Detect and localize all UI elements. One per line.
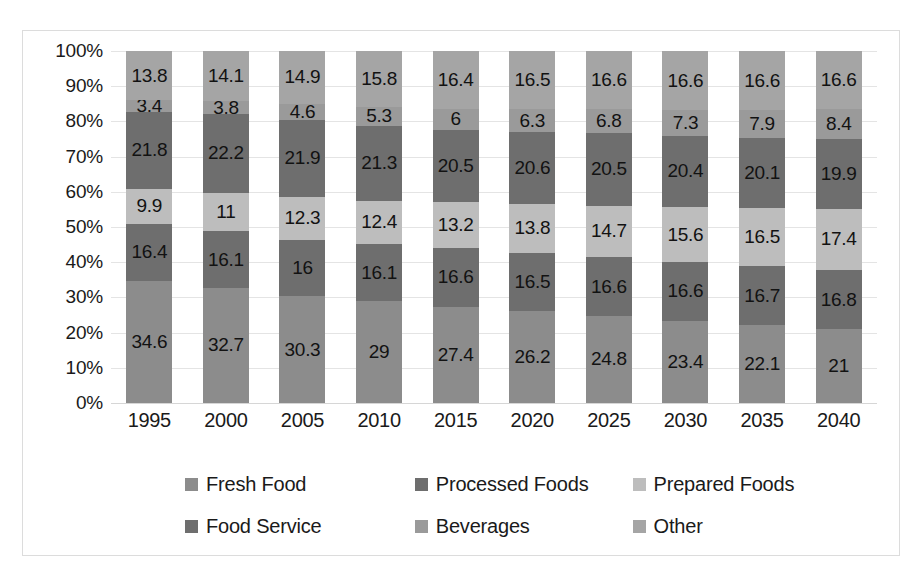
bar-segment[interactable]: 16.1 (203, 231, 249, 288)
bar-segment-value: 13.8 (131, 65, 167, 87)
bar-segment[interactable]: 7.9 (739, 110, 785, 138)
bar-segment[interactable]: 20.1 (739, 138, 785, 209)
legend-item[interactable]: Prepared Foods (627, 473, 839, 496)
legend-item[interactable]: Fresh Food (163, 473, 397, 496)
bar-segment[interactable]: 20.6 (509, 132, 555, 205)
bar-segment[interactable]: 16 (279, 240, 325, 296)
stacked-bar[interactable]: 26.216.513.820.66.316.5 (509, 51, 555, 403)
bar-segment[interactable]: 9.9 (126, 189, 172, 224)
bar-segment[interactable]: 16.4 (433, 51, 479, 109)
bar-segment[interactable]: 32.7 (203, 288, 249, 403)
bar-segment[interactable]: 16.6 (433, 248, 479, 306)
bar-segment[interactable]: 3.8 (203, 101, 249, 114)
bar-segment[interactable]: 15.6 (662, 207, 708, 262)
bar-segment[interactable]: 16.5 (509, 253, 555, 311)
bar-segment[interactable]: 6 (433, 109, 479, 130)
bar-segment[interactable]: 5.3 (356, 107, 402, 126)
bar-segment[interactable]: 22.2 (203, 114, 249, 192)
legend-swatch-icon (415, 478, 428, 491)
bar-segment[interactable]: 6.8 (586, 109, 632, 133)
bar-segment[interactable]: 16.6 (662, 262, 708, 320)
bar-segment-value: 6.8 (596, 110, 622, 132)
bar-segment-value: 21.8 (131, 139, 167, 161)
bar-segment-value: 16 (292, 257, 313, 279)
bar-segment[interactable]: 16.6 (816, 51, 862, 109)
stacked-bar[interactable]: 2916.112.421.35.315.8 (356, 51, 402, 403)
stacked-bar[interactable]: 2116.817.419.98.416.6 (816, 51, 862, 403)
bar-segment[interactable]: 13.8 (509, 204, 555, 253)
legend-item[interactable]: Processed Foods (397, 473, 627, 496)
bar-segment-value: 14.7 (591, 220, 627, 242)
bar-segment[interactable]: 16.7 (739, 266, 785, 325)
bar-segment-value: 17.4 (821, 228, 857, 250)
bar-segment[interactable]: 13.2 (433, 202, 479, 248)
bar-segment[interactable]: 3.4 (126, 100, 172, 112)
bar-segment[interactable]: 21.8 (126, 112, 172, 189)
bar-segment[interactable]: 29 (356, 301, 402, 403)
bar-segment[interactable]: 12.4 (356, 201, 402, 245)
legend-item[interactable]: Beverages (397, 515, 627, 538)
bar-segment[interactable]: 21.9 (279, 120, 325, 197)
bar-segment-value: 32.7 (208, 334, 244, 356)
bar-segment-value: 21.3 (361, 152, 397, 174)
stacked-bar[interactable]: 22.116.716.520.17.916.6 (739, 51, 785, 403)
legend-swatch-icon (633, 478, 646, 491)
bar-segment[interactable]: 14.7 (586, 206, 632, 258)
bar-segment[interactable]: 16.6 (739, 51, 785, 109)
stacked-bar[interactable]: 23.416.615.620.47.316.6 (662, 51, 708, 403)
bar-segment[interactable]: 23.4 (662, 321, 708, 403)
bar-segment[interactable]: 20.5 (586, 133, 632, 205)
bar-segment[interactable]: 24.8 (586, 316, 632, 403)
bar-segment-value: 27.4 (438, 344, 474, 366)
bar-segment-value: 16.1 (361, 262, 397, 284)
bar-segment[interactable]: 20.5 (433, 130, 479, 202)
stacked-bar[interactable]: 32.716.11122.23.814.1 (203, 51, 249, 403)
bar-segment[interactable]: 30.3 (279, 296, 325, 403)
legend-item[interactable]: Food Service (163, 515, 397, 538)
bar-slot: 24.816.614.720.56.816.6 (571, 51, 648, 403)
bar-segment[interactable]: 16.4 (126, 224, 172, 282)
bar-segment[interactable]: 6.3 (509, 109, 555, 131)
bar-segment[interactable]: 27.4 (433, 307, 479, 403)
bar-segment[interactable]: 16.5 (739, 208, 785, 266)
bar-segment-value: 6 (451, 108, 461, 130)
bar-segment[interactable]: 17.4 (816, 209, 862, 270)
bar-segment-value: 20.5 (438, 155, 474, 177)
bar-segment-value: 4.6 (290, 101, 316, 123)
bar-segment[interactable]: 14.1 (203, 51, 249, 101)
bar-segment[interactable]: 7.3 (662, 110, 708, 136)
bar-segment[interactable]: 21.3 (356, 126, 402, 201)
stacked-bar[interactable]: 34.616.49.921.83.413.8 (126, 51, 172, 403)
bar-segment[interactable]: 21 (816, 329, 862, 403)
y-axis-tick-label: 10% (66, 357, 103, 379)
stacked-bar[interactable]: 24.816.614.720.56.816.6 (586, 51, 632, 403)
bar-segment[interactable]: 11 (203, 193, 249, 232)
bar-segment-value: 9.9 (137, 195, 163, 217)
legend-item[interactable]: Other (627, 515, 839, 538)
bar-segment[interactable]: 4.6 (279, 104, 325, 120)
bar-segment[interactable]: 15.8 (356, 51, 402, 107)
bar-segment[interactable]: 8.4 (816, 109, 862, 139)
bar-segment[interactable]: 12.3 (279, 197, 325, 240)
bar-segment-value: 26.2 (514, 346, 550, 368)
chart-frame: 0%10%20%30%40%50%60%70%80%90%100% 34.616… (22, 30, 900, 556)
stacked-bar[interactable]: 30.31612.321.94.614.9 (279, 51, 325, 403)
bar-segment[interactable]: 16.8 (816, 270, 862, 329)
bar-segment[interactable]: 16.6 (586, 257, 632, 315)
bar-segment[interactable]: 20.4 (662, 136, 708, 208)
bar-segment[interactable]: 16.6 (586, 51, 632, 109)
bar-segment[interactable]: 16.1 (356, 244, 402, 301)
bar-segment[interactable]: 16.6 (662, 51, 708, 109)
bar-segment[interactable]: 22.1 (739, 325, 785, 403)
bar-segment[interactable]: 16.5 (509, 51, 555, 109)
chart-legend: Fresh FoodProcessed FoodsPrepared FoodsF… (163, 463, 839, 547)
bar-segment[interactable]: 14.9 (279, 51, 325, 103)
bar-segment[interactable]: 13.8 (126, 51, 172, 100)
bar-segment[interactable]: 26.2 (509, 311, 555, 403)
bar-slot: 2116.817.419.98.416.6 (800, 51, 877, 403)
stacked-bar[interactable]: 27.416.613.220.5616.4 (433, 51, 479, 403)
bar-segment-value: 21.9 (285, 147, 321, 169)
bar-segment[interactable]: 34.6 (126, 281, 172, 403)
bar-segment[interactable]: 19.9 (816, 139, 862, 209)
x-axis-tick-label: 2015 (417, 409, 494, 443)
